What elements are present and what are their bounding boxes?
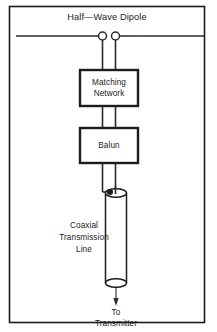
- matching-network-box: [80, 70, 138, 106]
- coax-label-line-3: Line: [76, 245, 92, 254]
- coax-label-line-1: Coaxial: [70, 221, 98, 230]
- arrow-head: [113, 298, 118, 306]
- transmitter-label-line-1: To: [112, 308, 121, 317]
- arrow-down-icon: [113, 288, 118, 306]
- coax-label-line-2: Transmission: [59, 233, 109, 242]
- matching-network-label-line-1: Matching: [92, 78, 126, 87]
- balun-label: Balun: [98, 141, 120, 150]
- matching-network-label-line-2: Network: [94, 89, 126, 98]
- figure-title: Half—Wave Dipole: [67, 12, 147, 22]
- diagram-canvas: Half—Wave Dipole Matching Network Balun: [0, 0, 217, 332]
- figure-border: [10, 7, 205, 323]
- half-wave-dipole-figure: Half—Wave Dipole Matching Network Balun: [0, 0, 217, 332]
- transmitter-label-line-2: Transmitter: [95, 319, 137, 328]
- cable-shield-connection-node: [107, 189, 113, 195]
- feedpoint-terminal-left: [99, 32, 107, 40]
- cable-bottom-ellipse: [106, 279, 127, 287]
- feedpoint-terminal-right: [112, 32, 120, 40]
